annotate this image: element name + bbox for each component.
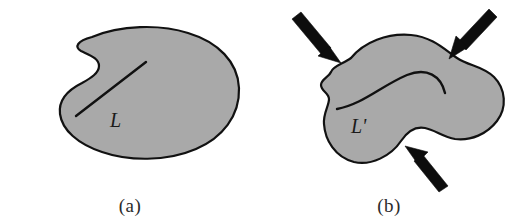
undeformed-body-graphic: L (0, 0, 260, 223)
figure-container: L (a) L' (0, 0, 519, 223)
body-shape-b-fill (321, 35, 504, 163)
caption-a: (a) (0, 195, 260, 217)
panel-deformed: L' (b) (259, 0, 519, 223)
load-arrow-top-left (292, 12, 341, 63)
load-arrow-bottom (405, 146, 448, 192)
load-arrow-top-right (449, 9, 497, 59)
deformed-body-graphic: L' (259, 0, 519, 223)
caption-b: (b) (259, 195, 519, 217)
material-line-label-L: L (109, 109, 121, 131)
load-arrow-top-left-shaft (292, 12, 331, 55)
material-line-label-L-prime: L' (350, 115, 367, 137)
panel-undeformed: L (a) (0, 0, 260, 223)
